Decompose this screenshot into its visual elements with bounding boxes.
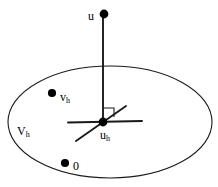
label-uh: uh xyxy=(100,126,110,143)
figure-canvas: u vh Vh uh 0 xyxy=(0,0,218,187)
label-subspace-base: V xyxy=(17,124,26,138)
point-zero xyxy=(61,159,69,167)
label-u-base: u xyxy=(88,9,94,23)
diagram-svg xyxy=(0,0,218,187)
point-u xyxy=(100,10,109,19)
label-subspace-sub: h xyxy=(26,130,30,139)
label-vh-point: vh xyxy=(60,88,70,105)
label-uh-sub: h xyxy=(106,134,110,143)
point-vh xyxy=(48,89,56,97)
label-vh-sub: h xyxy=(66,96,70,105)
label-u: u xyxy=(88,7,94,24)
label-zero-base: 0 xyxy=(73,159,79,173)
label-zero: 0 xyxy=(73,157,79,174)
label-subspace-vh: Vh xyxy=(17,122,30,139)
